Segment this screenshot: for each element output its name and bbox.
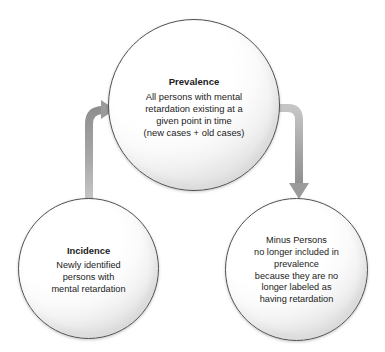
node-minus-persons-line-4: because they are no <box>254 271 339 283</box>
node-prevalence-line-2: retardation existing at a <box>144 103 245 115</box>
node-incidence-line-2: persons with <box>51 272 125 284</box>
node-minus-persons-line-2: no longer included in <box>254 247 339 259</box>
node-prevalence-title: Prevalence <box>144 76 245 88</box>
node-minus-persons-text: Minus Persons no longer included in prev… <box>248 235 345 307</box>
node-prevalence-line-1: All persons with mental <box>144 91 245 103</box>
node-minus-persons-line-5: longer labeled as <box>254 282 339 294</box>
node-incidence-line-3: mental retardation <box>51 284 125 296</box>
node-incidence[interactable]: Incidence Newly identified persons with … <box>18 198 159 339</box>
node-prevalence[interactable]: Prevalence All persons with mental retar… <box>108 19 280 191</box>
node-prevalence-line-3: given point in time <box>144 115 245 127</box>
node-minus-persons-line-3: prevalence <box>254 259 339 271</box>
node-minus-persons-line-6: having retardation <box>254 294 339 306</box>
arrow-prevalence-to-minus-persons <box>276 108 309 199</box>
node-incidence-line-1: Newly identified <box>51 260 125 272</box>
diagram-canvas: Prevalence All persons with mental retar… <box>0 0 385 352</box>
node-minus-persons[interactable]: Minus Persons no longer included in prev… <box>225 198 368 341</box>
node-prevalence-line-4: (new cases + old cases) <box>144 127 245 139</box>
node-incidence-text: Incidence Newly identified persons with … <box>45 245 131 295</box>
node-minus-persons-line-1: Minus Persons <box>254 235 339 247</box>
node-incidence-title: Incidence <box>51 245 125 257</box>
node-prevalence-text: Prevalence All persons with mental retar… <box>138 76 251 139</box>
